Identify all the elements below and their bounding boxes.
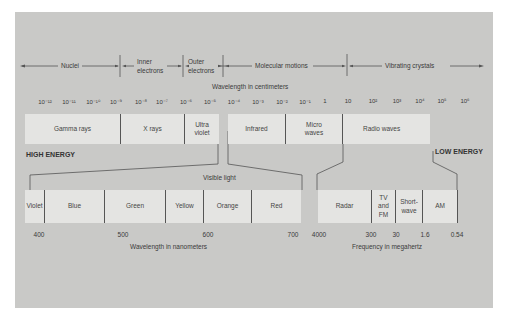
wavelength-cm-label: Wavelength in centimeters — [212, 84, 288, 91]
tick: 10⁻⁴ — [228, 98, 240, 105]
mhz-tick: 1.6 — [420, 231, 429, 238]
tick: 10⁻⁵ — [204, 98, 216, 105]
mhz-tick: 30 — [392, 231, 399, 238]
low-energy-label: LOW ENERGY — [435, 148, 483, 155]
source-outer-electrons: Outer electrons — [188, 58, 218, 76]
source-molecular-motions: Molecular motions — [255, 63, 308, 70]
color-blue: Blue — [45, 190, 105, 223]
tick: 10⁻² — [276, 98, 288, 105]
color-violet: Violet — [25, 190, 45, 223]
source-inner-electrons: Inner electrons — [137, 58, 167, 76]
tick: 10⁻⁹ — [110, 98, 122, 105]
band-ultraviolet: Ultra violet — [185, 114, 219, 144]
tick: 10⁴ — [415, 98, 424, 104]
tick: 10⁶ — [460, 98, 469, 104]
color-orange: Orange — [204, 190, 252, 223]
band-microwaves: Micro waves — [286, 114, 343, 144]
visible-light-label: Visible light — [203, 175, 236, 182]
color-yellow: Yellow — [166, 190, 204, 223]
band-radio-waves: Radio waves — [343, 114, 430, 144]
radio-band: Radar TV and FM Short-wave AM — [318, 190, 458, 223]
tick: 10⁻⁶ — [180, 98, 192, 105]
tick: 10⁵ — [437, 98, 446, 104]
tick: 10² — [369, 98, 378, 104]
tick: 10⁻⁷ — [156, 98, 168, 105]
source-nuclei: Nuclei — [61, 63, 79, 70]
band-tv-fm: TV and FM — [372, 190, 396, 223]
tick: 10⁻³ — [252, 98, 264, 105]
mhz-tick: 0.54 — [451, 231, 464, 238]
tick: 1 — [323, 98, 326, 104]
nm-tick: 700 — [288, 231, 299, 238]
band-shortwave: Short-wave — [396, 190, 423, 223]
nm-tick: 500 — [118, 231, 129, 238]
nanometers-axis-label: Wavelength in nanometers — [130, 244, 207, 251]
band-x-rays: X rays — [121, 114, 185, 144]
nm-tick: 400 — [34, 231, 45, 238]
color-green: Green — [105, 190, 166, 223]
band-am: AM — [423, 190, 458, 223]
band-radar: Radar — [318, 190, 372, 223]
spectrum-band-high: Gamma rays X rays Ultra violet — [25, 114, 219, 144]
frequency-axis-label: Frequency in megahertz — [352, 244, 422, 251]
spectrum-band-low: Infrared Micro waves Radio waves — [228, 114, 430, 144]
nm-tick: 600 — [203, 231, 214, 238]
band-gamma-rays: Gamma rays — [25, 114, 121, 144]
tick: 10⁻⁸ — [135, 98, 147, 105]
mhz-tick: 300 — [366, 231, 377, 238]
tick: 10⁻¹² — [38, 98, 52, 105]
tick: 10⁻¹¹ — [62, 98, 76, 105]
tick: 10 — [345, 98, 352, 104]
tick: 10³ — [393, 98, 402, 104]
connector-lines — [0, 0, 507, 323]
band-infrared: Infrared — [228, 114, 286, 144]
high-energy-label: HIGH ENERGY — [26, 151, 75, 158]
visible-light-band: Violet Blue Green Yellow Orange Red — [25, 190, 301, 223]
tick: 10⁻¹⁰ — [86, 98, 100, 105]
tick: 10⁻¹ — [299, 98, 311, 105]
mhz-tick: 4000 — [312, 231, 326, 238]
color-red: Red — [252, 190, 301, 223]
source-vibrating-crystals: Vibrating crystals — [385, 63, 434, 70]
